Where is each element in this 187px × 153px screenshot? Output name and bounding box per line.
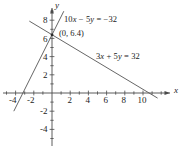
equation-label-line2: 3x + 5y = 32	[96, 52, 140, 61]
y-axis-label: y	[55, 1, 59, 10]
x-tick-label-6: 6	[104, 96, 109, 105]
y-tick-label-8: 8	[43, 16, 48, 25]
y-tick-label-neg2: -2	[40, 107, 48, 116]
x-axis-label: x	[174, 86, 178, 95]
axes-group	[3, 8, 170, 146]
y-tick-label-4: 4	[43, 53, 48, 62]
x-tick-label-neg2: -2	[27, 96, 35, 105]
x-tick-label-neg4: -4	[9, 96, 17, 105]
coordinate-plane-figure: -4 -2 2 4 6 8 10 8 6 4 2 -2 -4 x y 10x −…	[0, 0, 187, 153]
x-axis-arrow-icon	[165, 91, 171, 95]
equation-label-line1: 10x − 5y = −32	[64, 15, 117, 24]
x-tick-label-10: 10	[138, 96, 147, 105]
y-tick-label-2: 2	[43, 71, 48, 80]
line-10x-minus-5y	[14, 11, 64, 111]
y-tick-label-6: 6	[43, 35, 48, 44]
x-tick-label-8: 8	[122, 96, 127, 105]
intersection-point-marker	[51, 33, 54, 36]
intersection-point-label: (0, 6.4)	[59, 29, 84, 38]
x-tick-label-4: 4	[86, 96, 91, 105]
x-tick-label-2: 2	[68, 96, 73, 105]
y-tick-label-neg4: -4	[40, 125, 48, 134]
